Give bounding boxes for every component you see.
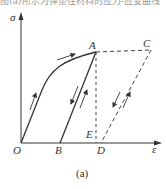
- point-label-A: A: [88, 39, 96, 51]
- y-axis-arrow-icon: [19, 12, 24, 20]
- loading-curve-OA: [21, 52, 96, 143]
- point-label-D: D: [96, 144, 105, 156]
- arrow-up-reloading-icon: [80, 90, 87, 108]
- y-axis-label: σ: [10, 11, 16, 23]
- dashed-line-AC: [96, 50, 151, 52]
- figure-caption: (a): [76, 167, 89, 180]
- direction-arrows: [30, 54, 130, 110]
- x-axis-label: ε: [152, 143, 157, 155]
- point-label-B: B: [55, 144, 62, 156]
- x-axis: [21, 141, 162, 146]
- stress-strain-diagram: σ ε O A B C D E (a): [0, 0, 166, 189]
- arrow-down-dashed-icon: [113, 92, 120, 107]
- origin-label: O: [13, 144, 21, 156]
- y-axis: [19, 12, 24, 143]
- point-label-E: E: [85, 128, 93, 140]
- dashed-line-CD: [101, 50, 151, 143]
- point-label-C: C: [143, 37, 151, 49]
